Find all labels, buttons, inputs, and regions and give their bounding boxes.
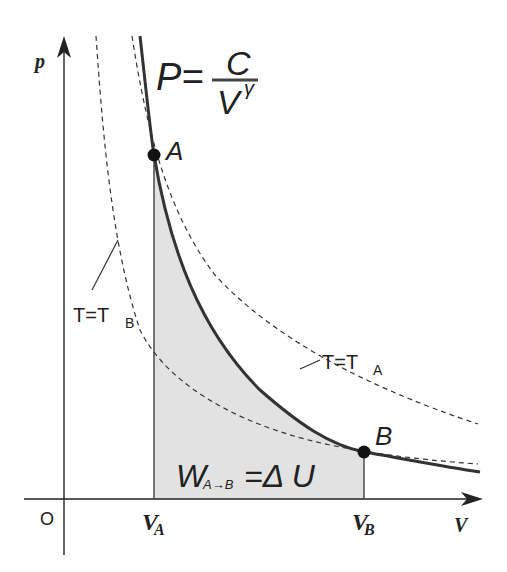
tb-leader (92, 240, 118, 290)
svg-text:P=: P= (156, 56, 204, 98)
adiabat-formula: P= C V γ (156, 44, 258, 121)
svg-text:B: B (363, 521, 375, 538)
pv-diagram: p V O P= C V γ A B T=T B T=T A V A V B W… (0, 0, 507, 572)
isotherm-ta-label: T=T A (322, 351, 383, 378)
ta-leader (300, 360, 320, 369)
isotherm-tb (96, 36, 478, 464)
origin-label: O (40, 509, 54, 529)
point-b-label: B (375, 421, 392, 451)
isotherm-tb-label: T=T B (73, 304, 134, 331)
point-b-marker (358, 446, 371, 459)
svg-text:A: A (153, 521, 165, 538)
svg-text:T=T: T=T (322, 351, 358, 373)
svg-text:A: A (373, 362, 383, 378)
va-tick-label: V A (142, 509, 165, 538)
point-a-label: A (164, 136, 183, 166)
svg-text:γ: γ (244, 77, 255, 99)
svg-text:V: V (217, 83, 243, 121)
work-area-fill (154, 155, 364, 499)
svg-text:A→B: A→B (202, 477, 234, 492)
svg-text:B: B (125, 315, 134, 331)
vb-tick-label: V B (352, 509, 375, 538)
point-a-marker (148, 149, 161, 162)
svg-text:=Δ U: =Δ U (244, 458, 316, 494)
work-label: W A→B =Δ U (176, 458, 316, 494)
x-axis-label: V (454, 514, 469, 536)
y-axis-label: p (33, 50, 45, 73)
svg-text:T=T: T=T (73, 304, 109, 326)
